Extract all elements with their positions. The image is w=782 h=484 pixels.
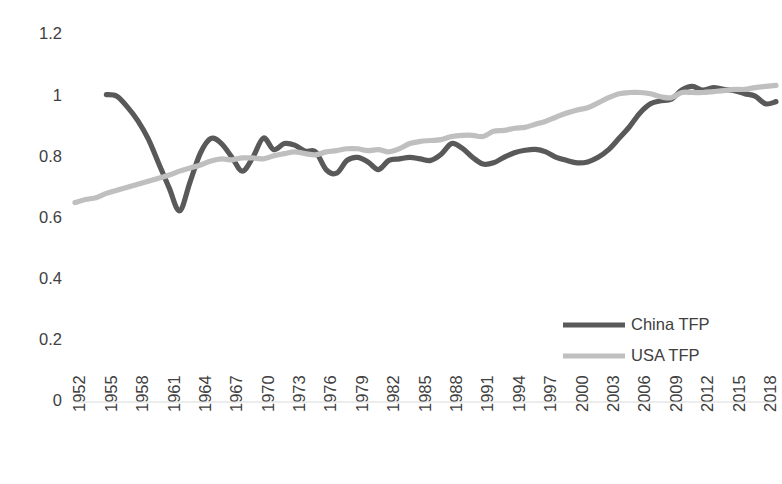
x-tick-label: 1958: [133, 375, 151, 412]
x-tick-label: 1982: [384, 375, 402, 412]
y-tick-label: 0.4: [39, 269, 62, 287]
x-tick-label: 1994: [510, 375, 528, 412]
x-tick-label: 1970: [259, 375, 277, 412]
series-line-usa-tfp: [75, 85, 776, 202]
legend-label-usa-tfp: USA TFP: [631, 346, 699, 364]
x-tick-label: 1973: [290, 375, 308, 412]
x-tick-label: 1967: [227, 375, 245, 412]
tfp-line-chart: 00.20.40.60.811.2 1952195519581961196419…: [0, 0, 782, 484]
y-tick-label: 1: [53, 86, 62, 104]
chart-legend: China TFPUSA TFP: [563, 315, 710, 364]
x-tick-label: 1976: [321, 375, 339, 412]
series-lines: [75, 85, 776, 210]
legend-label-china-tfp: China TFP: [631, 315, 710, 333]
x-tick-label: 2018: [761, 375, 779, 412]
x-tick-label: 1979: [353, 375, 371, 412]
y-tick-label: 0.6: [39, 208, 62, 226]
x-tick-label: 1997: [541, 375, 559, 412]
x-tick-label: 1955: [102, 375, 120, 412]
x-tick-label: 2000: [573, 375, 591, 412]
y-tick-label: 1.2: [39, 24, 62, 42]
y-tick-label: 0: [53, 391, 62, 409]
x-tick-label: 2006: [635, 375, 653, 412]
x-tick-label: 1961: [165, 375, 183, 412]
y-tick-label: 0.2: [39, 330, 62, 348]
x-tick-label: 2015: [730, 375, 748, 412]
series-line-china-tfp: [106, 86, 776, 211]
x-tick-label: 1991: [478, 375, 496, 412]
x-tick-label: 1952: [70, 375, 88, 412]
y-axis-tick-labels: 00.20.40.60.811.2: [39, 24, 62, 409]
x-tick-label: 2003: [604, 375, 622, 412]
chart-canvas: 00.20.40.60.811.2 1952195519581961196419…: [0, 0, 782, 484]
x-tick-label: 2012: [698, 375, 716, 412]
x-tick-label: 2009: [667, 375, 685, 412]
x-axis-tick-labels: 1952195519581961196419671970197319761979…: [70, 375, 779, 412]
y-tick-label: 0.8: [39, 147, 62, 165]
x-tick-label: 1964: [196, 375, 214, 412]
x-tick-label: 1985: [416, 375, 434, 412]
x-tick-label: 1988: [447, 375, 465, 412]
